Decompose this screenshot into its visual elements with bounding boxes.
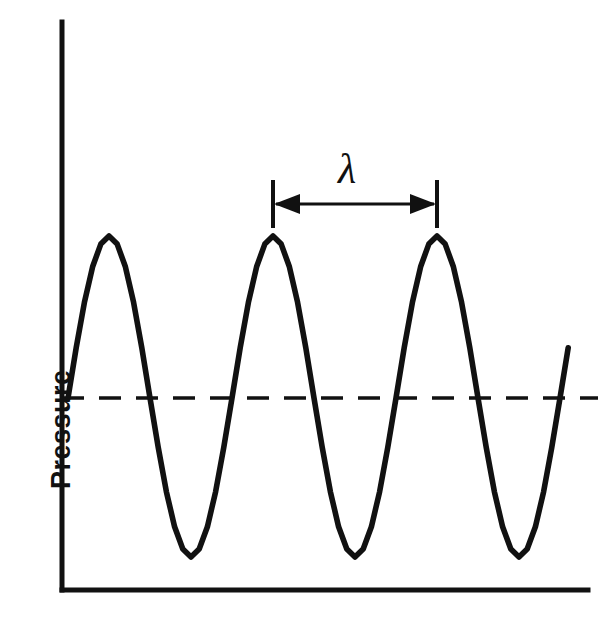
wavelength-lambda-label: λ	[338, 148, 356, 190]
pressure-wave-figure: Pressure λ	[0, 0, 612, 631]
wavelength-left-arrowhead	[274, 194, 300, 214]
y-axis-label: Pressure	[46, 369, 77, 489]
wavelength-right-arrowhead	[410, 194, 436, 214]
wave-plot-svg	[0, 0, 612, 631]
